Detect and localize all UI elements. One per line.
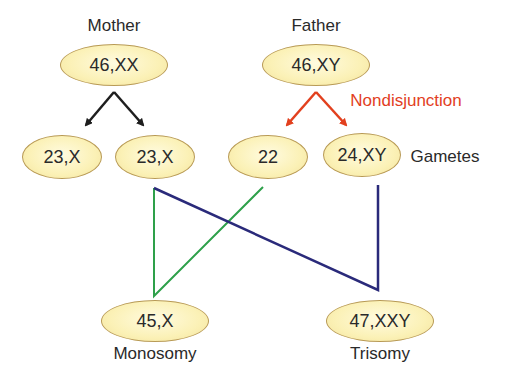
fertilization-lines <box>154 185 378 296</box>
gamete-oval-father-1: 22 <box>228 135 308 179</box>
mother-meiosis-arrows <box>86 92 143 125</box>
trisomy-label: Trisomy <box>350 344 410 364</box>
gamete-oval-father-2: 24,XY <box>323 133 401 177</box>
nondisjunction-arrows <box>287 92 346 125</box>
offspring-oval-monosomy: 45,X <box>101 300 209 342</box>
monosomy-label: Monosomy <box>113 344 196 364</box>
gametes-label: Gametes <box>411 147 480 167</box>
nondisjunction-label: Nondisjunction <box>350 91 462 111</box>
gamete-oval-mother-2: 23,X <box>115 135 195 179</box>
gamete-oval-mother-1: 23,X <box>22 135 102 179</box>
mother-label: Mother <box>88 16 141 36</box>
offspring-oval-trisomy: 47,XXY <box>326 300 434 342</box>
father-label: Father <box>291 16 340 36</box>
father-karyotype-oval: 46,XY <box>262 44 370 86</box>
mother-karyotype-oval: 46,XX <box>60 44 168 86</box>
